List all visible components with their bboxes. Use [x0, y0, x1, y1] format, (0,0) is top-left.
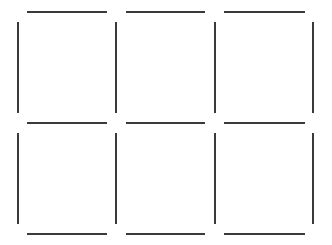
horizontal-edge-r1-c0[interactable]: [27, 122, 107, 124]
vertical-edge-r1-c1[interactable]: [115, 133, 117, 224]
horizontal-edge-r1-c2[interactable]: [224, 122, 305, 124]
horizontal-edge-r0-c1[interactable]: [126, 11, 205, 13]
vertical-edge-r0-c0[interactable]: [17, 22, 19, 113]
vertical-edge-r0-c3[interactable]: [312, 22, 314, 113]
vertical-edge-r1-c2[interactable]: [214, 133, 216, 224]
horizontal-edge-r0-c2[interactable]: [224, 11, 305, 13]
horizontal-edge-r2-c2[interactable]: [224, 233, 305, 235]
horizontal-edge-r1-c1[interactable]: [126, 122, 205, 124]
vertical-edge-r1-c0[interactable]: [17, 133, 19, 224]
game-board: [0, 0, 332, 245]
horizontal-edge-r0-c0[interactable]: [27, 11, 107, 13]
vertical-edge-r0-c1[interactable]: [115, 22, 117, 113]
vertical-edge-r0-c2[interactable]: [214, 22, 216, 113]
vertical-edge-r1-c3[interactable]: [312, 133, 314, 224]
horizontal-edge-r2-c0[interactable]: [27, 233, 107, 235]
horizontal-edge-r2-c1[interactable]: [126, 233, 205, 235]
